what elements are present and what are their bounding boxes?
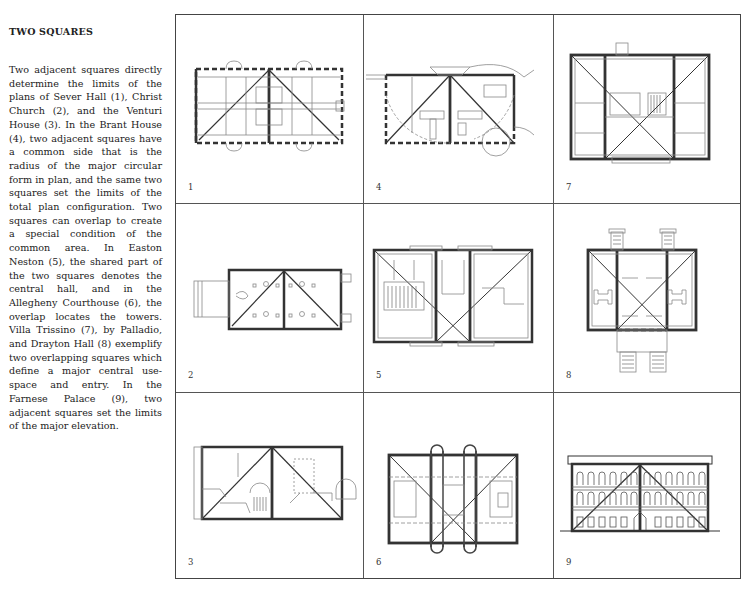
- venturi-house-plan-drawing: [176, 393, 364, 579]
- sever-hall-plan-drawing: [176, 15, 364, 204]
- figure-1: 1: [176, 15, 364, 204]
- figure-number: 3: [188, 557, 193, 567]
- description-paragraph: Two adjacent squares directly determine …: [9, 63, 162, 433]
- figure-number: 6: [376, 557, 381, 567]
- drayton-hall-plan-drawing: [554, 204, 742, 392]
- villa-trissino-plan-drawing: [554, 15, 742, 204]
- figure-number: 1: [188, 182, 193, 192]
- figure-3: 3: [176, 393, 364, 579]
- figure-7: 7: [554, 15, 742, 204]
- figure-number: 9: [566, 557, 571, 567]
- section-heading: TWO SQUARES: [9, 26, 93, 37]
- figure-5: 5: [364, 204, 553, 392]
- figure-number: 5: [376, 370, 381, 380]
- figure-number: 8: [566, 370, 571, 380]
- figure-number: 7: [566, 182, 571, 192]
- brant-house-plan-drawing: [364, 15, 553, 204]
- allegheny-courthouse-plan-drawing: [364, 393, 553, 579]
- easton-neston-plan-drawing: [364, 204, 553, 392]
- figure-4: 4: [364, 15, 553, 204]
- farnese-palace-elevation-drawing: [554, 393, 742, 579]
- figure-number: 4: [376, 182, 381, 192]
- figure-grid: 1: [175, 14, 741, 579]
- figure-9: 9: [554, 393, 742, 579]
- figure-6: 6: [364, 393, 553, 579]
- christ-church-plan-drawing: [176, 204, 364, 392]
- figure-2: 2: [176, 204, 364, 392]
- figure-8: 8: [554, 204, 742, 392]
- figure-number: 2: [188, 370, 193, 380]
